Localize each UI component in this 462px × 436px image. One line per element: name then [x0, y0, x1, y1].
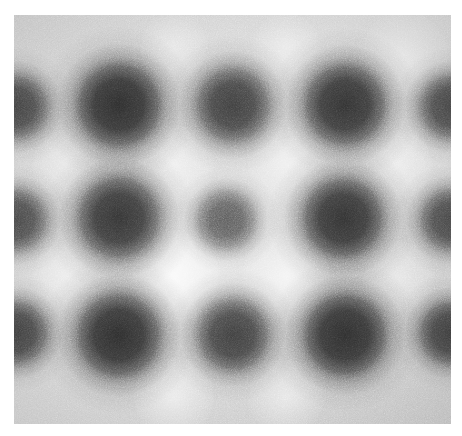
micrograph-image: [14, 15, 451, 424]
lattice-spot-group: [14, 15, 451, 424]
screenshot-root: [0, 0, 462, 436]
lattice-spot: [172, 166, 280, 274]
